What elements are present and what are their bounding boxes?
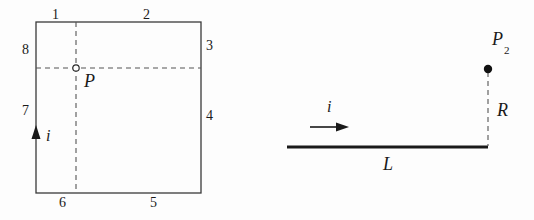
current-arrowhead-right xyxy=(336,123,349,132)
segment-label-2: 2 xyxy=(143,8,150,22)
distance-r-label: R xyxy=(497,101,508,119)
figure-canvas xyxy=(0,0,534,220)
length-l-label: L xyxy=(383,155,393,173)
segment-label-6: 6 xyxy=(59,196,66,210)
point-p-label: P xyxy=(84,72,95,90)
point-p-marker xyxy=(73,65,79,71)
square-loop-group xyxy=(32,22,202,193)
current-label-right: i xyxy=(327,99,331,115)
segment-label-5: 5 xyxy=(150,196,157,210)
point-p2-marker xyxy=(484,65,492,73)
segment-label-3: 3 xyxy=(206,39,213,53)
physics-figure: 1 2 3 4 5 6 7 8 P i P2 R L i xyxy=(0,0,534,220)
segment-label-8: 8 xyxy=(22,43,29,57)
point-p2-subscript: 2 xyxy=(504,44,510,56)
segment-label-7: 7 xyxy=(22,104,29,118)
current-arrowhead-left xyxy=(32,125,41,139)
point-p2-label: P2 xyxy=(492,30,509,52)
current-label-left: i xyxy=(46,128,50,144)
segment-label-1: 1 xyxy=(52,8,59,22)
square-loop-outline xyxy=(36,22,201,193)
straight-wire-group xyxy=(287,65,492,147)
segment-label-4: 4 xyxy=(206,109,213,123)
point-p2-base-letter: P xyxy=(492,29,503,49)
